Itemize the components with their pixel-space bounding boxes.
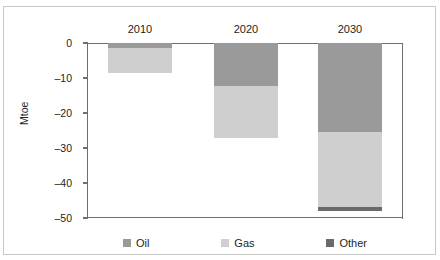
y-axis-tick-label: –20: [54, 108, 72, 118]
bar-stack-2030[interactable]: [318, 43, 382, 211]
chart-legend: OilGasOther: [87, 235, 403, 251]
legend-swatch-icon-oil: [123, 239, 131, 247]
legend-label: Other: [339, 238, 367, 249]
legend-label: Oil: [136, 238, 149, 249]
legend-item-oil[interactable]: Oil: [123, 238, 149, 249]
y-axis-tick: [83, 217, 88, 218]
x-axis-label-2010: 2010: [108, 23, 172, 35]
y-axis-tick: [83, 147, 88, 148]
chart-title-cropped: [0, 0, 440, 5]
y-axis-tick: [83, 77, 88, 78]
bar-segment-2030-other[interactable]: [318, 207, 382, 211]
y-axis-tick: [83, 112, 88, 113]
legend-swatch-icon-gas: [221, 239, 229, 247]
bar-segment-2020-gas[interactable]: [214, 86, 278, 138]
y-axis-tick-label: –10: [54, 73, 72, 83]
legend-label: Gas: [234, 238, 254, 249]
x-axis-label-2030: 2030: [318, 23, 382, 35]
bar-segment-2030-gas[interactable]: [318, 132, 382, 207]
y-axis-tick-label: –40: [54, 178, 72, 188]
y-axis-tick-label: –30: [54, 143, 72, 153]
y-axis-title: Mtoe: [18, 102, 30, 125]
bar-stack-2020[interactable]: [214, 43, 278, 138]
y-axis-tick-label: –50: [54, 213, 72, 223]
legend-item-other[interactable]: Other: [326, 238, 367, 249]
y-axis-tick: [83, 42, 88, 43]
legend-swatch-icon-other: [326, 239, 334, 247]
x-axis-label-2020: 2020: [214, 23, 278, 35]
bar-segment-2010-gas[interactable]: [108, 48, 172, 73]
y-axis-tick-label: 0: [66, 38, 72, 48]
plot-right-border: [402, 43, 403, 219]
legend-item-gas[interactable]: Gas: [221, 238, 254, 249]
bar-segment-2030-oil[interactable]: [318, 43, 382, 132]
bar-segment-2020-oil[interactable]: [214, 43, 278, 86]
bar-stack-2010[interactable]: [108, 43, 172, 73]
y-axis-tick: [83, 182, 88, 183]
chart-frame: 0–10–20–30–40–50 Mtoe 201020202030 OilGa…: [3, 6, 436, 255]
